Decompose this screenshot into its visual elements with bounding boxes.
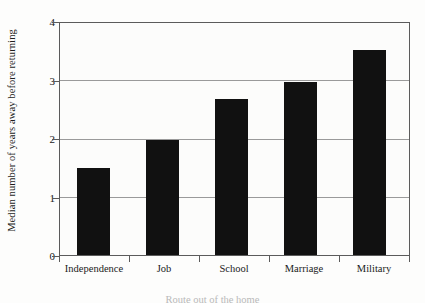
- plot-area: [59, 22, 410, 256]
- x-label-school: School: [219, 263, 248, 274]
- x-tick-mark-1: [129, 256, 130, 262]
- bar-chart-figure: Median number of years away before retur…: [0, 0, 425, 303]
- bar-independence: [77, 168, 110, 255]
- y-tick-mark-2: [52, 139, 59, 140]
- x-tick-mark-4: [339, 256, 340, 262]
- y-tick-mark-0: [52, 256, 59, 257]
- x-label-independence: Independence: [65, 263, 123, 274]
- x-tick-mark-3: [269, 256, 270, 262]
- x-tick-mark-0: [59, 256, 60, 262]
- x-tick-mark-2: [199, 256, 200, 262]
- bar-marriage: [284, 82, 317, 255]
- bar-military: [353, 50, 386, 255]
- x-label-job: Job: [157, 263, 172, 274]
- y-tick-mark-4: [52, 22, 59, 23]
- bar-school: [215, 99, 248, 255]
- y-tick-mark-3: [52, 81, 59, 82]
- y-axis-title: Median number of years away before retur…: [0, 0, 22, 260]
- x-tick-mark-5: [409, 256, 410, 262]
- y-axis-title-text: Median number of years away before retur…: [6, 29, 17, 232]
- y-tick-mark-1: [52, 198, 59, 199]
- x-axis-title: Route out of the home: [0, 294, 425, 303]
- bar-job: [146, 140, 179, 256]
- x-label-military: Military: [357, 263, 391, 274]
- x-label-marriage: Marriage: [285, 263, 323, 274]
